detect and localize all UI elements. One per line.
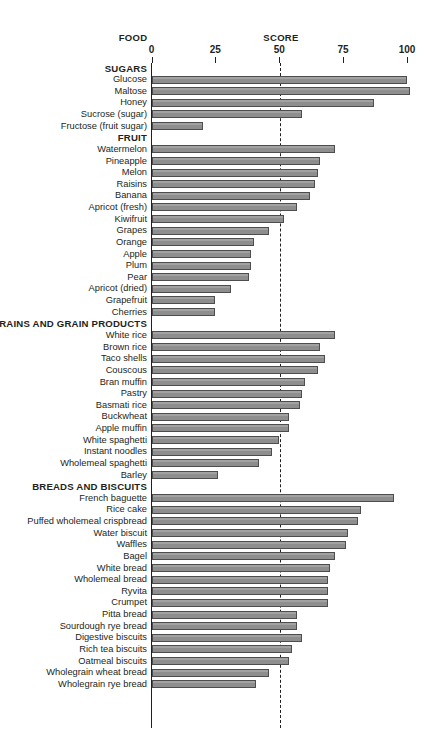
bar-label: Wholegrain wheat bread (46, 667, 147, 678)
bar-row: Wholegrain rye bread (0, 679, 440, 691)
bar-label: Taco shells (101, 353, 147, 364)
bar-label: Rice cake (106, 504, 147, 515)
bar-label: White bread (97, 563, 147, 574)
bar (152, 541, 346, 549)
bar (152, 250, 252, 258)
bar-label: Wholemeal spaghetti (60, 458, 147, 469)
bar (152, 238, 254, 246)
bar-label: Brown rice (103, 342, 147, 353)
bar (152, 680, 257, 688)
bar (152, 459, 259, 467)
bar-label: Digestive biscuits (75, 632, 147, 643)
section-header-row: SUGARS (0, 63, 440, 75)
bar (152, 576, 328, 584)
bar (152, 669, 270, 677)
bar (152, 99, 374, 107)
bar (152, 506, 362, 514)
bar (152, 366, 318, 374)
bar-row: Rich tea biscuits (0, 644, 440, 656)
bar-label: Grapefruit (106, 295, 147, 306)
bar-row: Water biscuit (0, 528, 440, 540)
bar (152, 634, 303, 642)
bar (152, 308, 216, 316)
bar-label: Water biscuit (94, 528, 147, 539)
bar (152, 145, 336, 153)
bar (152, 180, 316, 188)
bar-label: Pear (127, 272, 147, 283)
bar (152, 390, 303, 398)
bar (152, 157, 321, 165)
bar-row: Apricot (dried) (0, 283, 440, 295)
section-header-row: GRAINS AND GRAIN PRODUCTS (0, 318, 440, 330)
bar (152, 494, 395, 502)
bar (152, 262, 252, 270)
bar-label: Wholegrain rye bread (58, 679, 147, 690)
bar-label: Apple (123, 249, 147, 260)
bar-row: Plum (0, 260, 440, 272)
bar-row: Wholemeal spaghetti (0, 458, 440, 470)
bar-label: Rich tea biscuits (79, 644, 147, 655)
bar-label: Banana (115, 190, 147, 201)
bar (152, 564, 331, 572)
section-title: SUGARS (105, 63, 147, 74)
bar-row: Grapes (0, 225, 440, 237)
bar (152, 471, 218, 479)
bar-row: Puffed wholemeal crispbread (0, 516, 440, 528)
bar-label: Ryvita (121, 586, 147, 597)
glycemic-index-chart: FOOD SCORE 0255075100 SUGARSGlucoseMalto… (0, 0, 440, 741)
bar-row: Oatmeal biscuits (0, 656, 440, 668)
bar (152, 517, 359, 525)
section-title: FRUIT (118, 132, 147, 143)
bar-label: Waffles (117, 539, 147, 550)
bar (152, 657, 290, 665)
bar (152, 424, 290, 432)
bar-row: Pastry (0, 388, 440, 400)
bar (152, 587, 328, 595)
bar-row: Rice cake (0, 504, 440, 516)
bar-label: Glucose (113, 74, 147, 85)
bar-label: Raisins (117, 179, 147, 190)
bar-label: French baguette (79, 493, 147, 504)
bar-label: Barley (121, 470, 147, 481)
bar-row: Bagel (0, 551, 440, 563)
bar-label: Kiwifruit (114, 214, 147, 225)
bar-label: Instant noodles (84, 446, 147, 457)
bar-row: Digestive biscuits (0, 632, 440, 644)
bar-row: Grapefruit (0, 295, 440, 307)
bar (152, 215, 285, 223)
bar (152, 378, 305, 386)
section-title: GRAINS AND GRAIN PRODUCTS (0, 318, 147, 329)
bar-row: Brown rice (0, 342, 440, 354)
bar-label: White rice (106, 330, 147, 341)
bar-row: Pitta bread (0, 609, 440, 621)
bar-row: Taco shells (0, 353, 440, 365)
bar-label: Maltose (114, 86, 147, 97)
bar (152, 227, 270, 235)
bar (152, 436, 280, 444)
bar (152, 552, 336, 560)
bar-row: French baguette (0, 493, 440, 505)
bar (152, 192, 310, 200)
bar-label: Plum (126, 260, 147, 271)
bar-label: Orange (116, 237, 147, 248)
bar-label: Watermelon (97, 144, 147, 155)
bar-row: Bran muffin (0, 377, 440, 389)
bar (152, 413, 290, 421)
bar-row: Couscous (0, 365, 440, 377)
bar-row: Sourdough rye bread (0, 621, 440, 633)
section-title: BREADS AND BISCUITS (32, 481, 147, 492)
bar-row: Wholemeal bread (0, 574, 440, 586)
bar (152, 448, 272, 456)
bar (152, 645, 293, 653)
bar-label: Fructose (fruit sugar) (61, 121, 147, 132)
bar-row: Cherries (0, 307, 440, 319)
bar-row: Kiwifruit (0, 214, 440, 226)
bar (152, 599, 328, 607)
bar-row: Crumpet (0, 597, 440, 609)
bar-row: Pear (0, 272, 440, 284)
bar-row: Pineapple (0, 156, 440, 168)
bar (152, 331, 336, 339)
bar-label: Cherries (112, 307, 147, 318)
bar-label: Bagel (123, 551, 147, 562)
bar-label: Apple muffin (95, 423, 147, 434)
